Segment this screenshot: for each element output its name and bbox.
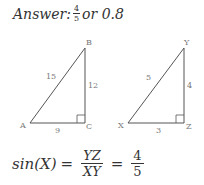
triangle-xyz: Y X Z 5 4 3 xyxy=(118,38,192,135)
vertex-label-y: Y xyxy=(183,38,190,47)
vertex-label-x: X xyxy=(118,121,124,130)
side-label-xy: 5 xyxy=(146,73,151,82)
right-angle-marker-c xyxy=(77,115,85,123)
vertex-label-c: C xyxy=(86,122,92,131)
right-angle-marker-z xyxy=(176,115,184,123)
vertex-label-a: A xyxy=(19,121,26,130)
triangle-abc: B A C 15 12 9 xyxy=(19,38,98,135)
side-label-xz: 3 xyxy=(156,126,161,135)
side-label-ac: 9 xyxy=(55,126,60,135)
formula-equals-2: = xyxy=(111,155,124,173)
vertex-label-z: Z xyxy=(186,122,192,131)
side-label-ab: 15 xyxy=(46,72,56,81)
sine-formula: sin(X) = YZ XY = 4 5 xyxy=(12,148,148,179)
formula-fraction-value: 4 5 xyxy=(131,148,143,179)
formula-denominator-5: 5 xyxy=(133,164,141,179)
triangle-abc-shape xyxy=(30,48,85,123)
formula-numerator-4: 4 xyxy=(131,148,143,164)
formula-lhs: sin(X) xyxy=(12,155,57,173)
side-label-bc: 12 xyxy=(88,81,98,90)
vertex-label-b: B xyxy=(86,38,92,47)
formula-equals: = xyxy=(61,155,74,173)
formula-numerator-yz: YZ xyxy=(81,148,103,164)
triangle-xyz-shape xyxy=(128,48,184,123)
formula-denominator-xy: XY xyxy=(83,164,101,179)
side-label-yz: 4 xyxy=(187,81,192,90)
formula-fraction-ratio: YZ XY xyxy=(81,148,103,179)
